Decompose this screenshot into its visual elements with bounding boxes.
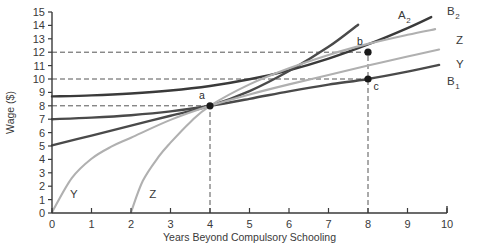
x-tick-label-4: 4: [207, 218, 213, 230]
data-point-marker-a: [206, 102, 213, 109]
y-tick-label-15: 15: [33, 6, 45, 18]
y-tick-label-8: 8: [39, 100, 45, 112]
data-point-label-b: b: [357, 35, 363, 47]
y-tick-label-7: 7: [39, 113, 45, 125]
x-axis-title: Years Beyond Compulsory Schooling: [163, 231, 336, 243]
curve-end-label-B2-subscript: 2: [455, 12, 460, 21]
y-tick-label-13: 13: [33, 33, 45, 45]
y-tick-label-9: 9: [39, 86, 45, 98]
x-tick-label-3: 3: [167, 218, 173, 230]
curve-end-label-B1-subscript: 1: [455, 82, 460, 91]
x-tick-label-10: 10: [441, 218, 453, 230]
data-point-marker-c: [364, 75, 371, 82]
curve-end-label-A2-subscript: 2: [406, 16, 411, 25]
x-tick-label-9: 9: [404, 218, 410, 230]
y-axis-title: Wage ($): [4, 91, 16, 134]
x-tick-label-5: 5: [246, 218, 252, 230]
y-tick-label-10: 10: [33, 73, 45, 85]
y-tick-label-3: 3: [39, 167, 45, 179]
curve-start-label-Y: Y: [70, 188, 78, 200]
data-point-label-a: a: [199, 89, 205, 101]
x-tick-label-0: 0: [49, 218, 55, 230]
y-tick-label-0: 0: [39, 207, 45, 219]
curve-start-label-Z: Z: [149, 188, 156, 200]
y-tick-label-12: 12: [33, 46, 45, 58]
y-tick-label-2: 2: [39, 180, 45, 192]
chart-container: 0123456789101112131415012345678910Years …: [0, 0, 479, 249]
y-tick-label-1: 1: [39, 194, 45, 206]
data-point-label-c: c: [373, 80, 378, 92]
x-tick-label-6: 6: [286, 218, 292, 230]
data-point-marker-b: [364, 49, 371, 56]
curve-end-label-Y: Y: [456, 58, 464, 70]
y-tick-label-4: 4: [39, 153, 45, 165]
y-tick-label-14: 14: [33, 19, 45, 31]
y-tick-label-6: 6: [39, 127, 45, 139]
x-tick-label-1: 1: [88, 218, 94, 230]
y-tick-label-5: 5: [39, 140, 45, 152]
wage-schooling-line-chart: 0123456789101112131415012345678910Years …: [0, 0, 479, 249]
x-tick-label-7: 7: [325, 218, 331, 230]
x-tick-label-8: 8: [365, 218, 371, 230]
curve-end-label-Z: Z: [456, 34, 463, 46]
x-tick-label-2: 2: [128, 218, 134, 230]
y-tick-label-11: 11: [34, 60, 45, 72]
